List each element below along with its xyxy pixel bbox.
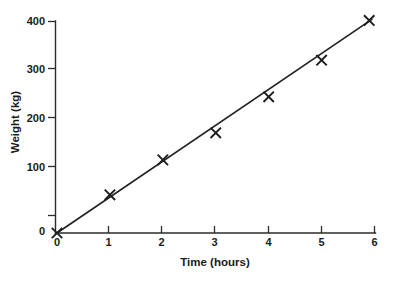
x-tick-label-5: 5 bbox=[318, 236, 324, 248]
x-tick-label-2: 2 bbox=[158, 236, 164, 248]
y-tick-label-0: 0 bbox=[39, 225, 45, 237]
y-tick-label-400: 400 bbox=[27, 15, 45, 27]
y-tick-label-300: 300 bbox=[27, 63, 45, 75]
y-axis-title: Weight (kg) bbox=[9, 91, 21, 154]
x-tick-label-1: 1 bbox=[105, 236, 111, 248]
chart-figure: 400 300 200 100 0 0 1 2 3 4 5 6 Time (ho… bbox=[0, 0, 394, 285]
y-tick-label-200: 200 bbox=[27, 112, 45, 124]
x-tick-label-4: 4 bbox=[265, 236, 272, 248]
x-tick-label-0: 0 bbox=[54, 236, 60, 248]
x-tick-label-6: 6 bbox=[371, 236, 377, 248]
weight-vs-time-scatter-chart: 400 300 200 100 0 0 1 2 3 4 5 6 Time (ho… bbox=[0, 0, 394, 285]
y-tick-label-100: 100 bbox=[27, 161, 45, 173]
x-axis-title: Time (hours) bbox=[180, 256, 250, 268]
x-tick-label-3: 3 bbox=[211, 236, 217, 248]
